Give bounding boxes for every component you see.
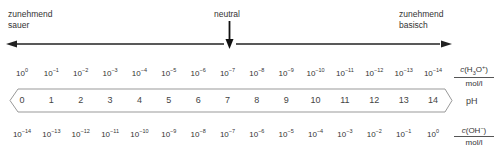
ph-value: 13 [389,95,419,105]
direction-arrows [0,0,500,60]
ph-scale-row: 01234567891011121314 [0,95,500,109]
ph-value: 5 [154,95,184,105]
h3o-unit-numerator: c(H3O+) [454,64,494,78]
concentration-value: 10−4 [124,67,154,78]
concentration-value: 10−7 [213,128,243,139]
oh-unit-numerator: c(OH−) [454,125,494,137]
concentration-value: 10−3 [330,128,360,139]
concentration-value: 10−1 [36,67,66,78]
concentration-value: 10−9 [271,67,301,78]
ph-value: 0 [7,95,37,105]
concentration-value: 10−8 [242,67,272,78]
ph-value: 4 [124,95,154,105]
ph-value: 3 [95,95,125,105]
h3o-unit-label: c(H3O+) mol/l [454,64,494,88]
left-arrow-icon [6,41,224,48]
ph-value: 2 [66,95,96,105]
concentration-value: 10−9 [154,128,184,139]
ph-value: 8 [242,95,272,105]
concentration-value: 10−1 [389,128,419,139]
h3o-unit-denominator: mol/l [454,78,494,88]
oh-unit-label: c(OH−) mol/l [454,125,494,147]
ph-label: pH [466,96,478,106]
concentration-value: 10−6 [242,128,272,139]
concentration-value: 10−14 [7,128,37,139]
ph-value: 14 [418,95,448,105]
h3o-concentration-row: 10010−110−210−310−410−510−610−710−810−91… [0,67,500,81]
concentration-value: 10−12 [359,67,389,78]
concentration-value: 10−14 [418,67,448,78]
concentration-value: 10−11 [95,128,125,139]
ph-value: 9 [271,95,301,105]
concentration-value: 10−13 [36,128,66,139]
concentration-value: 10−2 [359,128,389,139]
oh-unit-denominator: mol/l [454,137,494,147]
right-arrow-icon [195,41,452,48]
concentration-value: 10−6 [183,67,213,78]
concentration-value: 10−4 [301,128,331,139]
neutral-arrow-icon [226,21,234,49]
concentration-value: 10−5 [271,128,301,139]
concentration-value: 10−5 [154,67,184,78]
oh-concentration-row: 10−1410−1310−1210−1110−1010−910−810−710−… [0,128,500,142]
concentration-value: 10−7 [213,67,243,78]
ph-value: 7 [213,95,243,105]
concentration-value: 10−13 [389,67,419,78]
concentration-value: 100 [7,67,37,78]
concentration-value: 10−12 [66,128,96,139]
ph-value: 11 [330,95,360,105]
concentration-value: 10−11 [330,67,360,78]
ph-value: 1 [36,95,66,105]
concentration-value: 10−2 [66,67,96,78]
concentration-value: 10−3 [95,67,125,78]
concentration-value: 10−10 [301,67,331,78]
concentration-value: 10−10 [124,128,154,139]
concentration-value: 100 [418,128,448,139]
ph-value: 10 [301,95,331,105]
concentration-value: 10−8 [183,128,213,139]
ph-value: 12 [359,95,389,105]
ph-value: 6 [183,95,213,105]
